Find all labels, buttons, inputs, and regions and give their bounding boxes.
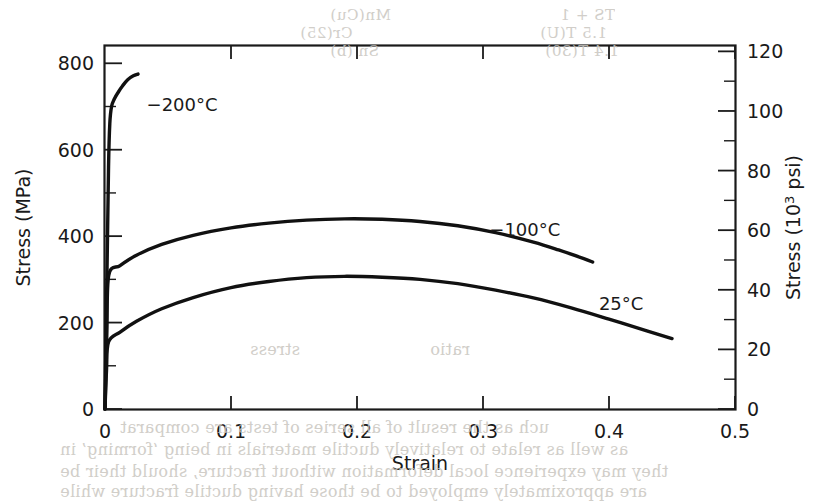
right-tick-label: 0 <box>747 398 759 420</box>
left-axis-tick-labels: 0200400600800 <box>58 52 94 420</box>
bottom-tick-label: 0 <box>99 420 111 442</box>
right-axis-tick-labels: 020406080100120 <box>747 40 783 420</box>
bottom-tick-label: 0.5 <box>720 420 750 442</box>
right-tick-label: 40 <box>747 279 771 301</box>
curve-labels: −200°C−100°C25°C <box>147 94 644 315</box>
data-curves <box>105 74 672 409</box>
left-tick-label: 400 <box>58 225 94 247</box>
left-tick-label: 800 <box>58 52 94 74</box>
right-tick-label: 100 <box>747 100 783 122</box>
right-tick-label: 20 <box>747 338 771 360</box>
left-tick-label: 0 <box>82 398 94 420</box>
bottom-tick-label: 0.1 <box>216 420 246 442</box>
left-tick-label: 600 <box>58 139 94 161</box>
right-tick-label: 60 <box>747 219 771 241</box>
bottom-axis-title: Strain <box>392 452 448 474</box>
curve-label-2: 25°C <box>599 293 643 314</box>
right-tick-label: 120 <box>747 40 783 62</box>
bottom-axis-tick-labels: 00.10.20.30.40.5 <box>99 420 750 442</box>
right-axis-ticks <box>718 51 735 409</box>
bottom-tick-label: 0.3 <box>468 420 498 442</box>
bottom-axis-ticks <box>231 396 735 409</box>
left-tick-label: 200 <box>58 312 94 334</box>
left-axis-title: Stress (MPa) <box>12 169 34 287</box>
right-axis-title: Stress (103 psi) <box>782 155 804 300</box>
curve-label-1: −100°C <box>489 219 560 240</box>
right-tick-label: 80 <box>747 160 771 182</box>
top-axis-ticks <box>231 46 735 59</box>
curve-200c <box>105 74 138 409</box>
bottom-tick-label: 0.2 <box>342 420 372 442</box>
bottom-tick-label: 0.4 <box>594 420 624 442</box>
curve-25c <box>105 276 672 409</box>
curve-label-0: −200°C <box>147 94 218 115</box>
curve-100c <box>105 219 593 409</box>
